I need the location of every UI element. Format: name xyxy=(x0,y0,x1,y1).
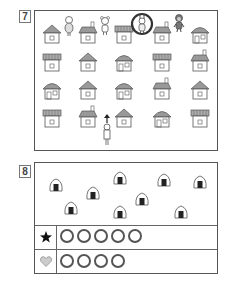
girl-character xyxy=(65,17,73,37)
answer-circle[interactable] xyxy=(94,254,108,268)
answer-circle[interactable] xyxy=(77,254,91,268)
answer-circle[interactable] xyxy=(60,229,74,243)
onigiri-area xyxy=(35,163,219,225)
answer-circle[interactable] xyxy=(111,229,125,243)
question-8-panel xyxy=(34,162,218,274)
answer-circle[interactable] xyxy=(128,229,142,243)
rabbit-character-circled xyxy=(132,14,152,34)
question-7-panel xyxy=(34,10,218,151)
monkey-character xyxy=(174,15,184,33)
question-number-8: 8 xyxy=(19,165,31,178)
answer-row-heart xyxy=(35,249,219,274)
answer-circle[interactable] xyxy=(77,229,91,243)
answer-circle[interactable] xyxy=(60,254,74,268)
answer-row-star xyxy=(35,225,219,249)
house-grid-illustration xyxy=(35,11,219,152)
boy-walker-with-up-arrow xyxy=(104,114,110,145)
question-number-7: 7 xyxy=(19,10,31,23)
heart-icon xyxy=(40,256,52,267)
answer-circle[interactable] xyxy=(111,254,125,268)
answer-circle[interactable] xyxy=(94,229,108,243)
star-icon xyxy=(40,231,52,243)
bear-character xyxy=(101,17,110,36)
